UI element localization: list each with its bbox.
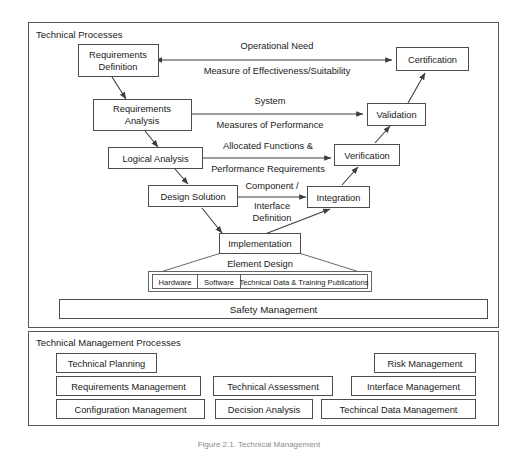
edge-label-definition: Definition [253, 213, 292, 223]
diagram-root: Technical Processes Operational Need Mea… [0, 0, 518, 450]
mgmt-item-decision-analysis-label: Decision Analysis [228, 405, 301, 415]
safety-management-label: Safety Management [230, 304, 318, 315]
node-validation-label: Validation [376, 110, 416, 120]
technical-processes-diagram: Technical Processes Operational Need Mea… [0, 0, 518, 450]
edge-label-allocated-functions: Allocated Functions & [223, 141, 314, 151]
edge-label-interface: Interface [254, 201, 290, 211]
node-integration-label: Integration [317, 193, 361, 203]
mgmt-item-interface-management-label: Interface Management [367, 382, 460, 392]
mgmt-item-configuration-management-label: Configuration Management [74, 405, 187, 415]
technical-management-processes-panel-title: Technical Management Processes [36, 337, 181, 348]
node-requirements-analysis-label-line1: Requirements [113, 104, 171, 114]
element-design-item-hardware-label: Hardware [159, 278, 192, 287]
edge-label-measures-of-performance: Measures of Performance [217, 120, 324, 130]
figure-caption: Figure 2.1. Technical Management [198, 440, 321, 449]
edge-label-component: Component / [245, 181, 299, 191]
element-design-label: Element Design [227, 259, 293, 269]
mgmt-item-requirements-management-label: Requirements Management [71, 382, 186, 392]
node-certification-label: Certification [408, 55, 457, 65]
node-verification-label: Verification [344, 151, 389, 161]
edge-label-measure-of-effectiveness: Measure of Effectiveness/Suitability [204, 66, 351, 76]
edge-label-performance-requirements: Performance Requirements [211, 164, 325, 174]
node-design-solution-label: Design Solution [160, 192, 225, 202]
edge-label-operational-need: Operational Need [241, 41, 314, 51]
mgmt-item-technical-data-management-label: Techincal Data Management [340, 405, 458, 415]
node-requirements-definition-label-line2: Definition [99, 62, 138, 72]
node-implementation-label: Implementation [228, 239, 292, 249]
mgmt-item-technical-assessment-label: Technical Assessment [227, 382, 319, 392]
element-design-item-software-label: Software [204, 278, 234, 287]
mgmt-item-risk-management-label: Risk Management [388, 359, 463, 369]
node-requirements-analysis-label-line2: Analysis [125, 116, 160, 126]
technical-processes-panel-title: Technical Processes [36, 29, 123, 40]
edge-label-system: System [255, 96, 286, 106]
node-logical-analysis-label: Logical Analysis [122, 154, 189, 164]
mgmt-item-technical-planning-label: Technical Planning [68, 359, 146, 369]
node-requirements-definition-label-line1: Requirements [89, 50, 147, 60]
element-design-item-technical-data-label: Technical Data & Training Publications [239, 278, 368, 287]
